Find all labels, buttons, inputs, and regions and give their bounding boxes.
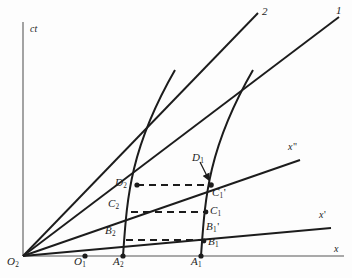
point-label-O2-base: O — [7, 255, 15, 267]
point-label-O1-sub: 1 — [82, 261, 86, 269]
point-label-D2-sub: 2 — [123, 182, 127, 190]
point-label-O2-sub: 2 — [15, 261, 19, 269]
point-label-B2-base: B — [105, 224, 112, 236]
x-prime-axis-label: x' — [319, 210, 326, 220]
x-prime-mark: ' — [323, 209, 325, 220]
point-label-C1p-prime: ' — [223, 186, 226, 198]
point-label-B1: B1 — [208, 236, 219, 249]
point-label-A1: A1 — [191, 256, 202, 269]
point-label-C2: C2 — [108, 198, 119, 211]
point-dot-C1 — [204, 210, 209, 215]
point-label-B2: B2 — [105, 225, 116, 238]
x-double-prime-mark: " — [292, 141, 297, 152]
point-label-C1-sub: 1 — [217, 210, 221, 218]
ct-axis-label: ct — [30, 24, 37, 34]
x-double-prime-axis-ray — [23, 160, 300, 256]
point-label-B2-sub: 2 — [112, 230, 116, 238]
point-label-B1-base: B — [208, 235, 215, 247]
point-dot-B1 — [202, 239, 207, 244]
point-label-D1: D1 — [192, 152, 204, 165]
worldline-from-A2 — [123, 70, 175, 256]
point-label-C2-sub: 2 — [115, 203, 119, 211]
point-label-C1: C1 — [210, 205, 221, 218]
spacetime-diagram-figure: ct x 2 1 x" x' O2 O1 A2 A1 B2 B1 B1' C2 … — [0, 0, 352, 278]
point-label-A1-sub: 1 — [198, 261, 202, 269]
point-label-B1p-sub: 1 — [213, 226, 217, 234]
point-label-A2: A2 — [113, 256, 124, 269]
point-label-O1: O1 — [74, 256, 86, 269]
worldline-2-label: 2 — [262, 6, 268, 17]
x-double-prime-axis-label: x" — [288, 142, 297, 152]
point-label-A2-sub: 2 — [120, 261, 124, 269]
point-label-O2: O2 — [7, 256, 19, 269]
point-label-D2-base: D — [115, 176, 123, 188]
x-prime-axis-ray — [23, 228, 331, 256]
diagram-canvas — [0, 0, 352, 278]
point-label-D1-sub: 1 — [200, 157, 204, 165]
point-label-B1p-base: B — [206, 220, 213, 232]
point-label-C1-prime: C1' — [212, 187, 226, 200]
point-label-B1-prime: B1' — [206, 221, 219, 234]
point-label-A2-base: A — [113, 255, 120, 267]
point-dot-D2 — [134, 182, 139, 187]
point-label-D1-base: D — [192, 151, 200, 163]
point-label-B1p-prime: ' — [217, 220, 220, 232]
point-label-D2: D2 — [115, 177, 127, 190]
worldline-1-label: 1 — [336, 5, 342, 16]
x-axis-label: x — [334, 244, 338, 254]
point-label-O1-base: O — [74, 255, 82, 267]
point-label-A1-base: A — [191, 255, 198, 267]
point-label-B1-sub: 1 — [215, 241, 219, 249]
worldline-1-ray — [23, 17, 339, 256]
